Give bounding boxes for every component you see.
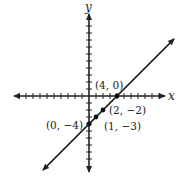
label-4-0: (4, 0) [95, 79, 123, 91]
label-0-neg4: (0, −4) [46, 119, 83, 131]
label-2-neg2: (2, −2) [109, 104, 146, 116]
point-2-neg2 [101, 108, 106, 113]
coordinate-plane: x y (4, 0) (2, −2) (1, −3) (0, −4) [0, 0, 187, 181]
label-1-neg3: (1, −3) [104, 120, 141, 132]
y-axis-label: y [84, 0, 92, 14]
x-axis-label: x [168, 89, 175, 103]
point-4-0 [115, 94, 120, 99]
point-1-neg3 [94, 115, 99, 120]
point-0-neg4 [87, 122, 92, 127]
